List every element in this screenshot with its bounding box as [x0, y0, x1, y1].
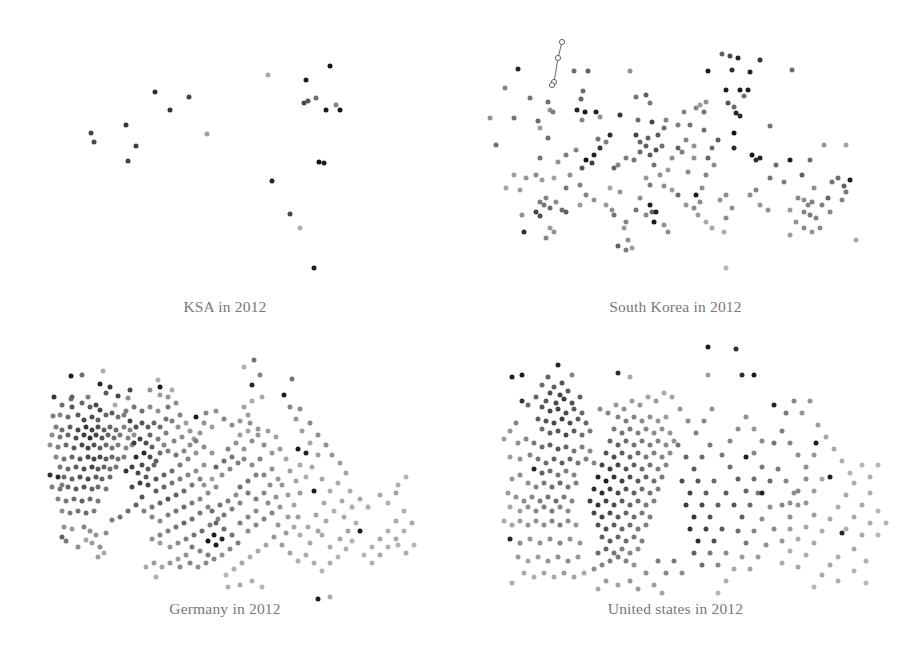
scatter-point — [250, 383, 255, 388]
scatter-point — [518, 509, 523, 514]
scatter-point — [804, 553, 809, 558]
scatter-point — [634, 133, 639, 138]
scatter-point — [312, 489, 317, 494]
scatter-point — [132, 433, 137, 438]
scatter-point — [304, 475, 309, 480]
scatter-point — [124, 469, 129, 474]
plot-area-ksa[interactable] — [0, 0, 450, 290]
scatter-point — [190, 545, 195, 550]
scatter-point — [568, 173, 573, 178]
scatter-point — [780, 561, 785, 566]
scatter-point — [702, 110, 707, 115]
scatter-point — [520, 399, 525, 404]
scatter-point — [324, 519, 329, 524]
scatter-point — [56, 497, 61, 502]
plot-area-south-korea[interactable] — [450, 0, 901, 290]
scatter-point — [538, 126, 543, 131]
scatter-point — [260, 585, 265, 590]
scatter-point — [304, 451, 309, 456]
scatter-point — [101, 369, 106, 374]
scatter-point — [168, 545, 173, 550]
scatter-point — [80, 401, 85, 406]
scatter-point — [598, 407, 603, 412]
scatter-point — [320, 569, 325, 574]
scatter-point — [274, 495, 279, 500]
scatter-point — [814, 216, 819, 221]
scatter-point — [592, 487, 597, 492]
scatter-point — [202, 463, 207, 468]
scatter-point — [274, 435, 279, 440]
scatter-point — [512, 116, 517, 121]
scatter-point — [154, 575, 159, 580]
scatter-point — [620, 451, 625, 456]
scatter-point — [512, 173, 517, 178]
scatter-point — [546, 136, 551, 141]
scatter-point — [154, 489, 159, 494]
scatter-point — [278, 447, 283, 452]
scatter-point — [648, 443, 653, 448]
scatter-point — [156, 378, 161, 383]
scatter-point — [222, 527, 227, 532]
scatter-point — [232, 567, 237, 572]
scatter-point — [158, 451, 163, 456]
scatter-point — [644, 176, 649, 181]
scatter-point — [654, 148, 659, 153]
scatter-point — [148, 405, 153, 410]
scatter-point — [624, 248, 629, 253]
scatter-point — [730, 206, 735, 211]
scatter-point — [140, 495, 145, 500]
scatter-point — [522, 230, 527, 235]
scatter-point — [836, 555, 841, 560]
scatter-point — [298, 491, 303, 496]
scatter-point — [670, 395, 675, 400]
scatter-point — [688, 527, 693, 532]
scatter-point — [112, 436, 117, 441]
scatter-point — [636, 118, 641, 123]
scatter-point — [170, 419, 175, 424]
scatter-point — [748, 567, 753, 572]
scatter-point — [574, 148, 579, 153]
scatter-point — [128, 388, 133, 393]
scatter-point — [552, 385, 557, 390]
plot-area-united-states[interactable] — [450, 335, 901, 615]
scatter-point — [82, 485, 87, 490]
scatter-point — [596, 475, 601, 480]
scatter-point — [84, 425, 89, 430]
scatter-point — [676, 123, 681, 128]
scatter-point — [86, 446, 91, 451]
scatter-point — [732, 131, 737, 136]
scatter-point — [790, 68, 795, 73]
scatter-point — [98, 455, 103, 460]
scatter-point — [514, 495, 519, 500]
scatter-point — [616, 583, 621, 588]
scatter-point — [116, 415, 121, 420]
scatter-point — [89, 131, 94, 136]
scatter-point — [288, 551, 293, 556]
scatter-point — [608, 539, 613, 544]
scatter-point — [192, 533, 197, 538]
scatter-point — [526, 505, 531, 510]
scatter-point — [526, 481, 531, 486]
scatter-point — [146, 467, 151, 472]
scatter-point — [164, 431, 169, 436]
scatter-point — [876, 533, 881, 538]
scatter-point — [546, 375, 551, 380]
scatter-point — [708, 551, 713, 556]
scatter-point — [566, 389, 571, 394]
plot-area-germany[interactable] — [0, 335, 450, 615]
scatter-point — [540, 471, 545, 476]
scatter-point — [692, 156, 697, 161]
scatter-point — [600, 463, 605, 468]
scatter-point — [752, 427, 757, 432]
scatter-point — [530, 495, 535, 500]
scatter-point — [106, 433, 111, 438]
scatter-point — [596, 137, 601, 142]
scatter-point — [534, 485, 539, 490]
scatter-point — [206, 491, 211, 496]
scatter-point — [104, 531, 109, 536]
scatter-point — [188, 429, 193, 434]
scatter-point — [522, 499, 527, 504]
scatter-point — [618, 190, 623, 195]
scatter-point — [518, 473, 523, 478]
scatter-point — [140, 409, 145, 414]
